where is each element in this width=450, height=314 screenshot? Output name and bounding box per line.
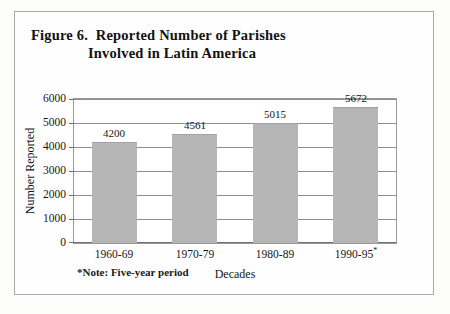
figure-title-line-2: Involved in Latin America (31, 44, 401, 62)
bar-value-label: 5672 (345, 93, 367, 104)
y-axis-tick-label: 3000 (43, 165, 66, 177)
figure-border-box: Figure 6. Reported Number of Parishes In… (14, 11, 434, 295)
bar (172, 134, 217, 243)
figure-root: Figure 6. Reported Number of Parishes In… (0, 0, 450, 314)
y-axis-tick-label: 4000 (43, 141, 66, 153)
bar (333, 107, 378, 243)
plot-area: 0100020003000400050006000 42001960-69456… (73, 98, 397, 244)
y-axis-tick-label: 1000 (43, 213, 66, 225)
x-axis-tick-label: 1990-95* (335, 248, 377, 260)
x-axis-tick-label: 1960-69 (95, 248, 133, 260)
y-axis-tick-label: 5000 (43, 117, 66, 129)
y-axis-tick-label: 0 (60, 237, 66, 249)
y-axis-title: Number Reported (23, 98, 37, 244)
footnote-asterisk: * (373, 246, 377, 255)
figure-title: Figure 6. Reported Number of Parishes In… (31, 26, 401, 62)
bar-value-label: 4561 (184, 120, 206, 131)
y-axis-tick-label: 6000 (43, 93, 66, 105)
bar (92, 142, 137, 243)
y-axis-tick-label: 2000 (43, 189, 66, 201)
figure-title-line-1: Figure 6. Reported Number of Parishes (31, 26, 401, 44)
x-axis-tick-label: 1970-79 (176, 248, 214, 260)
figure-footnote: *Note: Five-year period (77, 266, 189, 279)
bars-layer: 42001960-6945611970-7950151980-895672199… (74, 99, 396, 243)
bar-value-label: 4200 (103, 128, 125, 139)
x-axis-tick-label: 1980-89 (256, 248, 294, 260)
bar (253, 123, 298, 243)
bar-value-label: 5015 (264, 109, 286, 120)
